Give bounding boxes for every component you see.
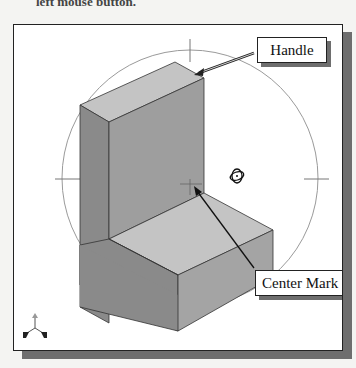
graphics-viewport[interactable]: Handle Center Mark — [13, 24, 343, 351]
xyz-triad-icon — [23, 313, 47, 338]
top-partial-text: left mouse button. — [36, 0, 136, 10]
center-mark-callout: Center Mark — [255, 270, 343, 296]
orbit-cursor-icon — [229, 169, 245, 183]
model-canvas — [14, 25, 343, 351]
handle-arrow — [194, 53, 254, 76]
handle-callout: Handle — [257, 37, 327, 63]
